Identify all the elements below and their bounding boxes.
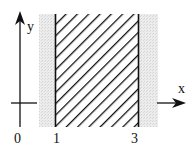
y-axis-label: y [27, 19, 34, 34]
tick-label-1: 1 [53, 131, 60, 146]
strip-diagram: y x 0 1 3 [0, 0, 191, 151]
hatched-region [55, 14, 138, 127]
x-axis-label: x [178, 81, 185, 96]
origin-label: 0 [14, 131, 21, 146]
tick-label-3: 3 [131, 131, 138, 146]
